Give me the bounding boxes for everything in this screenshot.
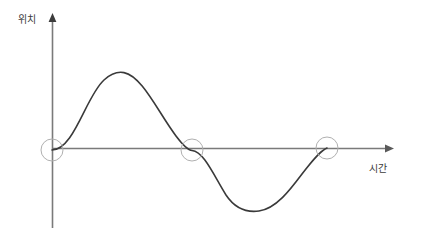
y-axis (49, 13, 57, 228)
sine-curve-path (52, 72, 327, 211)
x-axis-arrow-icon (385, 145, 394, 153)
x-axis-label: 시간 (369, 163, 387, 175)
diagram-canvas: 위치 시간 (0, 0, 421, 242)
y-axis-arrow-icon (49, 13, 57, 22)
x-axis (52, 145, 394, 153)
sine-wave-plot (0, 0, 421, 242)
y-axis-label: 위치 (18, 14, 36, 26)
